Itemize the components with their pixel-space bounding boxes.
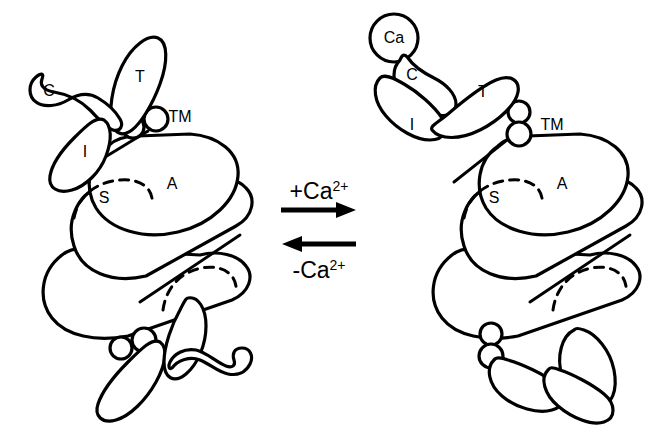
forward-reaction-superscript: 2+ (332, 178, 348, 194)
label-troponin-c-right: C (406, 66, 418, 83)
troponin-complex-upper-right: C I T (375, 55, 518, 140)
label-actin-right: A (557, 175, 568, 192)
right-arrow (281, 202, 356, 218)
thin-filament-diagram: TM T C I (0, 0, 656, 438)
tropomyosin-bead (507, 122, 531, 146)
label-troponin-c-left: C (43, 82, 55, 99)
label-site-right: S (489, 189, 500, 206)
reverse-reaction-label: -Ca2+ (292, 257, 345, 283)
troponin-complex-lower-right (489, 329, 615, 424)
forward-reaction-label: +Ca2+ (290, 178, 349, 204)
label-troponin-i-right: I (410, 116, 414, 133)
right-arrow-head (336, 202, 356, 218)
label-tm-upper-right: TM (540, 116, 563, 133)
forward-reaction-text: +Ca (290, 178, 333, 204)
reverse-reaction-superscript: 2+ (330, 257, 346, 273)
label-calcium: Ca (384, 29, 405, 46)
left-arrow (282, 236, 356, 252)
reaction-arrows: +Ca2+ -Ca2+ (281, 178, 356, 283)
panel-relaxed: TM T C I (30, 37, 252, 421)
actin-filament-right (433, 134, 642, 338)
label-troponin-i-left: I (83, 143, 87, 160)
label-actin-left: A (167, 175, 178, 192)
figure-canvas: TM T C I (0, 0, 656, 438)
panel-activated: TM Ca C I T (370, 14, 642, 423)
label-troponin-t-right: T (478, 83, 488, 100)
tropomyosin-bead (110, 337, 132, 359)
label-site-left: S (99, 189, 110, 206)
label-tm-upper-left: TM (168, 108, 191, 125)
reverse-reaction-text: -Ca (292, 257, 329, 283)
left-arrow-head (282, 236, 302, 252)
tropomyosin-bead (480, 323, 502, 345)
label-troponin-t-left: T (135, 68, 145, 85)
